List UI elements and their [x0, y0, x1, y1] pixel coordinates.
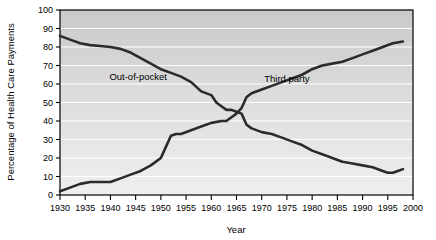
x-axis-tick-labels: 1930193519401945195019551960196519701975… [50, 203, 423, 213]
x-tick-label: 1960 [201, 203, 221, 213]
y-tick-label: 70 [43, 61, 53, 71]
y-tick-label: 60 [43, 79, 53, 89]
y-tick-label: 40 [43, 116, 53, 126]
x-tick-label: 1935 [75, 203, 95, 213]
x-tick-label: 1940 [100, 203, 120, 213]
y-tick-label: 10 [43, 172, 53, 182]
y-tick-label: 20 [43, 153, 53, 163]
y-tick-label: 30 [43, 135, 53, 145]
health-care-payments-chart: 0102030405060708090100 19301935194019451… [0, 0, 436, 240]
x-tick-label: 1965 [226, 203, 246, 213]
x-tick-label: 1975 [277, 203, 297, 213]
y-tick-label: 80 [43, 42, 53, 52]
x-axis-title: Year [226, 224, 245, 235]
y-axis-tick-labels: 0102030405060708090100 [38, 5, 53, 200]
x-tick-label: 1990 [353, 203, 373, 213]
x-tick-label: 1995 [378, 203, 398, 213]
x-tick-label: 1930 [50, 203, 70, 213]
x-tick-label: 1980 [302, 203, 322, 213]
y-tick-label: 50 [43, 98, 53, 108]
y-axis-title: Percentage of Health Care Payments [5, 23, 16, 181]
y-tick-label: 100 [38, 5, 53, 15]
x-tick-label: 1970 [252, 203, 272, 213]
y-tick-label: 90 [43, 24, 53, 34]
y-tick-label: 0 [48, 190, 53, 200]
x-tick-label: 1985 [327, 203, 347, 213]
x-tick-label: 1945 [126, 203, 146, 213]
x-axis-ticks [60, 195, 413, 200]
chart-canvas: 0102030405060708090100 19301935194019451… [0, 0, 436, 240]
x-tick-label: 1955 [176, 203, 196, 213]
series-label-out-of-pocket: Out-of-pocket [109, 71, 167, 82]
x-tick-label: 2000 [403, 203, 423, 213]
x-tick-label: 1950 [151, 203, 171, 213]
series-label-third-party: Third party [264, 73, 310, 84]
